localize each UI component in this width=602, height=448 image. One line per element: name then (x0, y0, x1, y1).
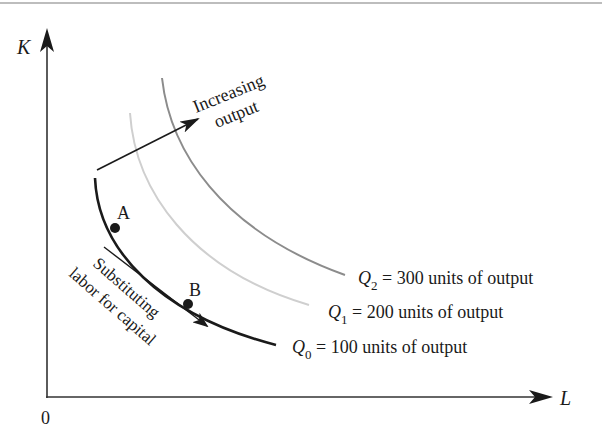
point-b-label: B (189, 280, 201, 300)
origin-label: 0 (41, 408, 50, 428)
increasing-output-arrow (97, 119, 198, 170)
x-axis (46, 390, 553, 404)
isoquant-diagram: K L 0 Increasing output A B Substituting… (0, 0, 602, 448)
q2-label: Q2 = 300 units of output (358, 268, 533, 293)
svg-text:Q0 = 100 units of output: Q0 = 100 units of output (292, 337, 467, 362)
svg-text:Q2 = 300 units of output: Q2 = 300 units of output (358, 268, 533, 293)
point-b-marker (183, 299, 193, 309)
q0-label: Q0 = 100 units of output (292, 337, 467, 362)
q1-label: Q1 = 200 units of output (328, 302, 503, 327)
y-axis-label: K (16, 36, 32, 58)
x-axis-label: L (559, 387, 571, 409)
isoquant-q1-curve (130, 113, 309, 305)
y-axis (40, 28, 54, 398)
point-a-marker (110, 223, 120, 233)
point-a-label: A (117, 203, 130, 223)
svg-text:Q1 = 200 units of output: Q1 = 200 units of output (328, 302, 503, 327)
